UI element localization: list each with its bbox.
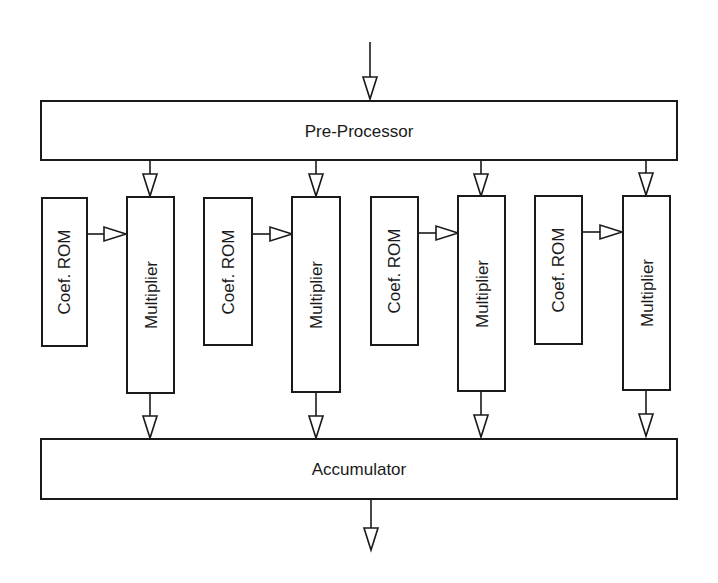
coef-rom-4-label: Coef. ROM [549,227,568,312]
multiplier-4-label: Multiplier [638,259,657,327]
coef-rom-1-label: Coef. ROM [55,229,74,314]
preprocessor-block: Pre-Processor [41,101,677,160]
multiplier-3-label: Multiplier [473,260,492,328]
output-arrow [364,499,378,550]
multiplier-2-to-accumulator-arrow [309,416,323,438]
accumulator-label: Accumulator [312,460,407,479]
rom-to-multiplier-4-arrow [600,225,622,239]
multiplier-1-to-accumulator-arrow [143,416,157,438]
accumulator-block: Accumulator [41,439,677,499]
rom-to-multiplier-3-arrow [436,226,458,240]
rom-to-multiplier-2-arrow [270,227,292,241]
preprocessor-to-multiplier-4-arrow [639,173,653,195]
lane-1: Coef. ROM Multiplier [42,160,174,438]
lane-3: Coef. ROM Multiplier [371,160,505,437]
fir-filter-diagram: Pre-Processor Coef. ROM Multiplier Coef.… [0,0,718,583]
rom-to-multiplier-1-arrow [104,227,126,241]
multiplier-4-to-accumulator-arrow [639,414,653,436]
lane-4: Coef. ROM Multiplier [535,159,670,436]
preprocessor-to-multiplier-1-arrow [143,174,157,196]
coef-rom-3-label: Coef. ROM [385,228,404,313]
preprocessor-label: Pre-Processor [305,122,414,141]
lane-2: Coef. ROM Multiplier [204,160,340,438]
multiplier-1-label: Multiplier [142,261,161,329]
preprocessor-to-multiplier-2-arrow [309,174,323,196]
preprocessor-to-multiplier-3-arrow [474,174,488,196]
input-arrow [363,42,377,99]
multiplier-3-to-accumulator-arrow [474,415,488,437]
coef-rom-2-label: Coef. ROM [219,229,238,314]
multiplier-2-label: Multiplier [307,261,326,329]
